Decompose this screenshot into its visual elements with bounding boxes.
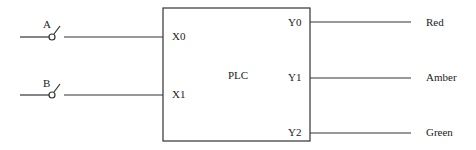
plc-title: PLC xyxy=(228,70,248,81)
switch-b-label: B xyxy=(43,78,50,89)
terminal-x0: X0 xyxy=(172,31,185,42)
output-green-label: Green xyxy=(426,127,453,138)
switch-b-icon xyxy=(20,84,60,98)
terminal-y1: Y1 xyxy=(288,72,301,83)
terminal-y2: Y2 xyxy=(288,127,301,138)
output-red-label: Red xyxy=(426,17,444,28)
switch-a-icon xyxy=(20,26,60,40)
terminal-x1: X1 xyxy=(172,89,185,100)
output-amber-label: Amber xyxy=(426,72,457,83)
terminal-y0: Y0 xyxy=(288,17,301,28)
switch-a-label: A xyxy=(43,19,51,30)
